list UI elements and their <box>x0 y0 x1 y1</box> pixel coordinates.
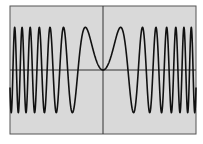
graph-plot <box>0 0 203 144</box>
